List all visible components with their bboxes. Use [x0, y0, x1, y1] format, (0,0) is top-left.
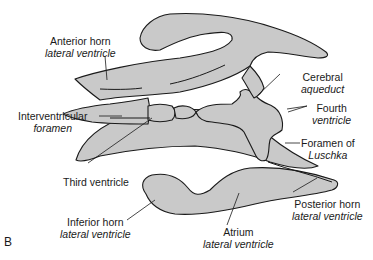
aqueduct-segment-1 [148, 105, 175, 122]
label-cerebral-aqueduct: Cerebral aqueduct [301, 71, 344, 95]
leader-fourth-ventricle-1 [287, 106, 307, 109]
label-interventricular-foramen: Interventricular foramen [18, 110, 87, 134]
leader-inferior-horn [127, 200, 155, 220]
leader-fourth-ventricle-2 [288, 106, 307, 112]
label-anterior-horn: Anterior horn lateral ventricle [45, 35, 116, 59]
panel-letter: B [4, 235, 12, 249]
label-third-ventricle: Third ventricle [63, 176, 129, 188]
label-inferior-horn: Inferior horn lateral ventricle [60, 216, 131, 240]
label-fourth-ventricle: Fourth ventricle [312, 102, 351, 126]
label-posterior-horn: Posterior horn lateral ventricle [292, 198, 363, 222]
label-atrium: Atrium lateral ventricle [203, 226, 274, 250]
label-foramen-of-luschka: Foramen of Luschka [301, 137, 355, 161]
